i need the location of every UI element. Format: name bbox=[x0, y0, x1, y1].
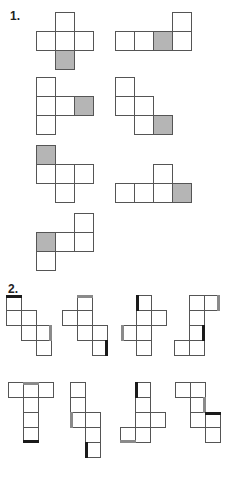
net-face bbox=[8, 382, 24, 398]
net-face bbox=[55, 31, 75, 51]
net-face bbox=[134, 31, 154, 51]
net-face bbox=[153, 183, 173, 203]
marked-edge-black bbox=[202, 325, 205, 341]
net-face bbox=[74, 213, 94, 233]
net-face bbox=[85, 412, 101, 428]
net-face bbox=[115, 31, 135, 51]
net-face bbox=[190, 412, 206, 428]
net-face bbox=[115, 96, 135, 116]
net-face bbox=[6, 310, 22, 326]
shaded-face bbox=[153, 115, 173, 135]
marked-edge-gray bbox=[23, 382, 39, 385]
net-face bbox=[74, 164, 94, 184]
section-label: 2. bbox=[8, 283, 18, 295]
net-face bbox=[55, 164, 75, 184]
net-face bbox=[62, 310, 78, 326]
marked-edge-black bbox=[85, 442, 88, 458]
net-face bbox=[153, 164, 173, 184]
net-face bbox=[189, 340, 205, 356]
net-face bbox=[70, 397, 86, 413]
net-face bbox=[36, 31, 56, 51]
net-face bbox=[172, 31, 192, 51]
shaded-face bbox=[36, 145, 56, 165]
net-face bbox=[85, 427, 101, 443]
marked-edge-gray bbox=[120, 440, 136, 443]
net-face bbox=[23, 412, 39, 428]
net-face bbox=[70, 382, 86, 398]
net-face bbox=[74, 31, 94, 51]
shaded-face bbox=[36, 232, 56, 252]
net-face bbox=[150, 412, 166, 428]
net-face bbox=[55, 232, 75, 252]
net-face bbox=[134, 96, 154, 116]
marked-edge-black bbox=[135, 382, 138, 398]
net-face bbox=[36, 96, 56, 116]
net-face bbox=[190, 382, 206, 398]
marked-edge-black bbox=[23, 440, 39, 443]
net-face bbox=[36, 164, 56, 184]
net-face bbox=[55, 96, 75, 116]
shaded-face bbox=[172, 183, 192, 203]
marked-edge-gray bbox=[121, 325, 124, 341]
net-face bbox=[55, 183, 75, 203]
net-face bbox=[172, 12, 192, 32]
net-face bbox=[21, 310, 37, 326]
net-face bbox=[175, 382, 191, 398]
net-face bbox=[38, 382, 54, 398]
net-face bbox=[77, 310, 93, 326]
net-face bbox=[135, 397, 151, 413]
net-face bbox=[36, 251, 56, 271]
cube-nets-worksheet: 1.2. bbox=[0, 0, 230, 477]
net-face bbox=[77, 325, 93, 341]
net-face bbox=[205, 427, 221, 443]
net-face bbox=[136, 340, 152, 356]
marked-edge-black bbox=[6, 295, 22, 298]
net-face bbox=[136, 325, 152, 341]
marked-edge-gray bbox=[49, 325, 52, 341]
net-face bbox=[74, 232, 94, 252]
marked-edge-black bbox=[205, 412, 221, 415]
section-label: 1. bbox=[10, 10, 20, 22]
net-face bbox=[135, 427, 151, 443]
net-face bbox=[134, 115, 154, 135]
net-face bbox=[135, 412, 151, 428]
shaded-face bbox=[153, 31, 173, 51]
net-face bbox=[36, 77, 56, 97]
net-face bbox=[189, 295, 205, 311]
marked-edge-black bbox=[105, 340, 108, 356]
net-face bbox=[23, 397, 39, 413]
net-face bbox=[36, 115, 56, 135]
marked-edge-black bbox=[136, 295, 139, 311]
net-face bbox=[136, 310, 152, 326]
net-face bbox=[55, 12, 75, 32]
marked-edge-gray bbox=[217, 295, 220, 311]
net-face bbox=[21, 325, 37, 341]
net-face bbox=[189, 310, 205, 326]
net-face bbox=[115, 77, 135, 97]
net-face bbox=[92, 325, 108, 341]
net-face bbox=[36, 340, 52, 356]
net-face bbox=[134, 183, 154, 203]
marked-edge-gray bbox=[203, 397, 206, 413]
marked-edge-gray bbox=[70, 412, 73, 428]
marked-edge-gray bbox=[77, 295, 93, 298]
net-face bbox=[174, 340, 190, 356]
net-face bbox=[115, 183, 135, 203]
shaded-face bbox=[74, 96, 94, 116]
shaded-face bbox=[55, 50, 75, 70]
net-face bbox=[151, 310, 167, 326]
